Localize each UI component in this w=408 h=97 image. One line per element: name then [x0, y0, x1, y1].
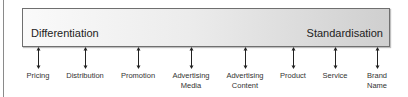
- double-arrow-icon: [82, 47, 89, 69]
- double-arrow-icon: [188, 47, 195, 69]
- element-label-brand-name: BrandName: [342, 71, 408, 91]
- standardisation-spectrum-bar: Differentiation Standardisation: [22, 8, 390, 47]
- double-arrow-icon: [374, 47, 381, 69]
- double-arrow-icon: [332, 47, 339, 69]
- differentiation-label: Differentiation: [31, 27, 99, 39]
- double-arrow-icon: [242, 47, 249, 69]
- double-arrow-icon: [35, 47, 42, 69]
- double-arrow-icon: [290, 47, 297, 69]
- double-arrow-icon: [135, 47, 142, 69]
- standardisation-label: Standardisation: [307, 27, 383, 39]
- left-border-rule: [3, 0, 4, 97]
